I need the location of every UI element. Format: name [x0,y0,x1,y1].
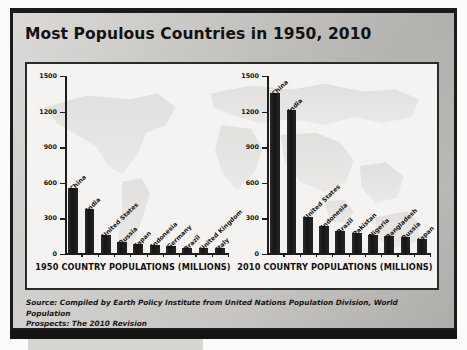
bar [287,110,297,254]
bar [68,188,78,254]
chart-caption: 1950 COUNTRY POPULATIONS (MILLIONS) [33,262,233,272]
source-note: Source: Compiled by Earth Policy Institu… [26,298,436,330]
bar-chart-1950: 030060090012001500ChinaIndiaUnited State… [33,70,233,290]
charts-panel: 030060090012001500ChinaIndiaUnited State… [25,62,439,290]
x-axis-tick [163,253,164,257]
y-axis-label: 1500 [33,72,57,80]
y-axis-label: 900 [33,143,57,151]
x-axis-tick [81,253,82,257]
x-axis-tick [212,253,213,257]
bar [352,233,362,254]
x-axis-tick [332,253,333,257]
foreground-object [28,339,203,350]
y-axis-label: 0 [33,250,57,258]
x-axis-tick [414,253,415,257]
x-axis-tick [228,253,229,257]
bar [319,226,329,254]
chart-caption: 2010 COUNTRY POPULATIONS (MILLIONS) [235,262,435,272]
y-axis-tick [60,76,65,77]
x-axis-tick [349,253,350,257]
x-axis-tick [195,253,196,257]
y-axis-label: 600 [33,179,57,187]
bar [85,209,95,254]
x-axis-tick [147,253,148,257]
page-title: Most Populous Countries in 1950, 2010 [25,25,425,43]
y-axis-label: 300 [235,214,259,222]
y-axis-line [267,76,269,254]
source-line-2: Prospects: The 2010 Revision [26,319,436,330]
source-line-1: Source: Compiled by Earth Policy Institu… [26,298,436,319]
y-axis-label: 900 [235,143,259,151]
y-axis-line [65,76,67,254]
x-axis-tick [365,253,366,257]
x-axis-tick [381,253,382,257]
y-axis-tick [60,147,65,148]
y-axis-label: 1200 [235,108,259,116]
y-axis-tick [60,254,65,255]
x-axis-tick [283,253,284,257]
x-axis-tick [98,253,99,257]
x-axis-tick [430,253,431,257]
x-axis-tick [316,253,317,257]
charts-container: 030060090012001500ChinaIndiaUnited State… [27,64,437,288]
y-axis-tick [262,112,267,113]
bar [270,93,280,254]
x-axis-tick [179,253,180,257]
y-axis-tick [60,112,65,113]
y-axis-tick [60,218,65,219]
slide-surface: Most Populous Countries in 1950, 2010 [13,13,454,328]
y-axis-tick [262,254,267,255]
slide-photo: Most Populous Countries in 1950, 2010 [0,0,467,350]
y-axis-label: 1200 [33,108,57,116]
y-axis-label: 300 [33,214,57,222]
x-axis-tick [300,253,301,257]
frame-bottom-edge [10,330,457,339]
bar [303,217,313,254]
x-axis-tick [114,253,115,257]
y-axis-tick [60,183,65,184]
bar-chart-2010: 030060090012001500ChinaIndiaUnited State… [235,70,435,290]
y-axis-label: 600 [235,179,259,187]
y-axis-tick [262,76,267,77]
x-axis-tick [397,253,398,257]
y-axis-label: 1500 [235,72,259,80]
y-axis-tick [262,147,267,148]
y-axis-label: 0 [235,250,259,258]
x-axis-tick [130,253,131,257]
y-axis-tick [262,218,267,219]
y-axis-tick [262,183,267,184]
